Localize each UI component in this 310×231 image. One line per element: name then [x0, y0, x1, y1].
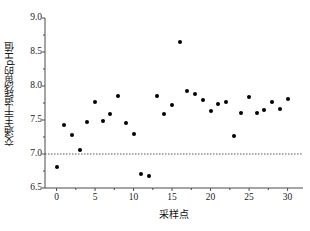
y-tick-label: 8.0 — [16, 81, 42, 91]
data-point — [70, 133, 74, 137]
data-point — [132, 132, 136, 136]
x-axis-title: 采样点 — [45, 206, 303, 221]
data-point — [155, 94, 159, 98]
plot-area — [45, 18, 303, 188]
data-point — [270, 100, 274, 104]
x-tick-label: 10 — [122, 193, 146, 203]
data-point — [247, 95, 251, 99]
y-tick-label: 7.0 — [16, 149, 42, 159]
data-point — [185, 89, 189, 93]
data-point — [124, 121, 128, 125]
y-tick-label: 8.5 — [16, 47, 42, 57]
data-point — [93, 100, 97, 104]
data-point — [101, 119, 105, 123]
y-tick-label: 9.0 — [16, 13, 42, 23]
data-point — [139, 172, 143, 176]
x-tick-label: 25 — [237, 193, 261, 203]
data-point — [193, 92, 197, 96]
data-point — [178, 40, 182, 44]
data-point — [286, 97, 290, 101]
data-point — [85, 120, 89, 124]
data-point — [216, 102, 220, 106]
data-point — [62, 123, 66, 127]
x-tick-label: 20 — [199, 193, 223, 203]
data-point — [232, 134, 236, 138]
data-point — [55, 165, 59, 169]
y-tick-label: 7.5 — [16, 115, 42, 125]
data-point — [224, 100, 228, 104]
data-point — [170, 103, 174, 107]
x-tick-label: 15 — [160, 193, 184, 203]
data-point — [147, 174, 151, 178]
data-point — [209, 109, 213, 113]
data-point — [162, 112, 166, 116]
data-point — [262, 108, 266, 112]
x-tick-label: 0 — [45, 193, 69, 203]
data-point — [108, 112, 112, 116]
ph-scatter-chart: 交通主干道残留的pH值 6.57.07.58.08.59.0 051015202… — [0, 0, 310, 231]
x-tick-label: 30 — [276, 193, 300, 203]
data-point — [278, 107, 282, 111]
x-axis-tick-labels: 051015202530 — [0, 193, 310, 207]
data-point — [116, 94, 120, 98]
data-point — [239, 111, 243, 115]
x-tick-label: 5 — [83, 193, 107, 203]
data-point — [255, 111, 259, 115]
data-point — [201, 98, 205, 102]
y-tick-label: 6.5 — [16, 183, 42, 193]
data-point — [78, 148, 82, 152]
